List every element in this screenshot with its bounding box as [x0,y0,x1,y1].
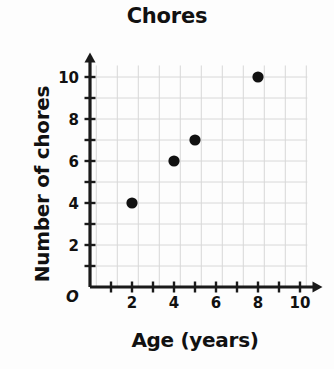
y-tick-label: 4 [69,195,79,213]
data-point [189,134,200,145]
axis-lines [85,52,323,292]
gridlines [96,65,307,287]
scatter-plot-chart: Chores Number of chores Age (years) O 24… [0,0,334,369]
y-tick-label: 6 [69,153,79,171]
x-tick-label: 10 [290,294,311,312]
x-tick-label: 4 [169,294,179,312]
data-point [252,71,263,82]
data-point [126,197,137,208]
y-tick-labels: 246810 [58,69,79,255]
x-tick-labels: 246810 [127,294,311,312]
y-tick-label: 8 [69,111,79,129]
y-tick-label: 10 [58,69,79,87]
x-tick-label: 6 [211,294,221,312]
y-tick-label: 2 [69,237,79,255]
x-tick-label: 2 [127,294,137,312]
data-point [168,155,179,166]
plot-area: 246810 246810 [0,0,334,369]
x-tick-label: 8 [253,294,263,312]
